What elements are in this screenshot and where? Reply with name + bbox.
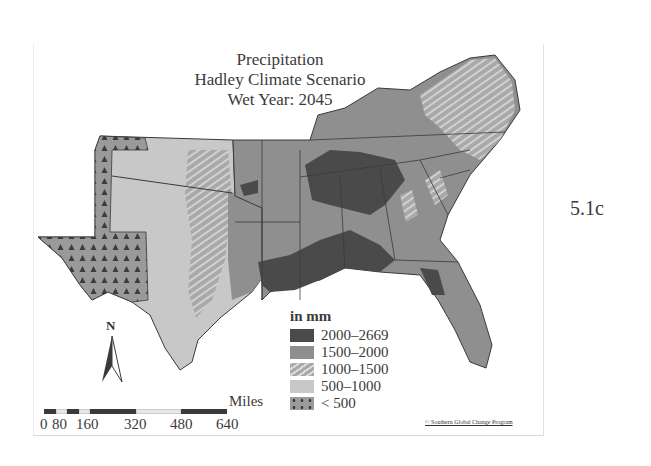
- scale-tick: 480: [170, 416, 193, 433]
- figure-label: 5.1c: [570, 197, 604, 220]
- legend-label: 500–1000: [321, 378, 381, 395]
- legend-label: 1000–1500: [321, 361, 389, 378]
- scale-tick: 0: [40, 416, 48, 433]
- scale-tick: 80: [52, 416, 67, 433]
- legend-swatch-wet: [290, 346, 314, 359]
- legend-item: 1500–2000: [290, 344, 389, 361]
- region-texas-oklahoma: [38, 136, 268, 370]
- legend-swatch-moderate: [290, 363, 314, 376]
- legend-label: 1500–2000: [321, 344, 389, 361]
- legend-label: 2000–2669: [321, 327, 389, 344]
- scale-tick: 160: [76, 416, 99, 433]
- scale-segment: [79, 409, 90, 414]
- title-line-1: Precipitation: [180, 50, 380, 70]
- legend-item: 2000–2669: [290, 327, 389, 344]
- legend: in mm 2000–2669 1500–2000 1000–1500 500–…: [290, 308, 389, 412]
- scale-segment: [56, 409, 67, 414]
- scale-segment: [44, 409, 56, 414]
- scale-tick: 320: [124, 416, 147, 433]
- title-line-2: Hadley Climate Scenario: [180, 70, 380, 90]
- map-title: Precipitation Hadley Climate Scenario We…: [180, 50, 380, 110]
- title-line-3: Wet Year: 2045: [180, 90, 380, 110]
- legend-item: 500–1000: [290, 378, 389, 395]
- scale-segment: [90, 409, 136, 414]
- legend-swatch-dry: [290, 380, 314, 393]
- scale-segment: [67, 409, 79, 414]
- legend-title: in mm: [290, 308, 389, 325]
- legend-swatch-driest: [290, 397, 314, 410]
- north-arrow-icon: [100, 336, 124, 386]
- legend-item: < 500: [290, 395, 389, 412]
- legend-swatch-wettest: [290, 329, 314, 342]
- north-label: N: [106, 318, 115, 334]
- scale-tick: 640: [216, 416, 239, 433]
- scale-segment: [181, 409, 227, 414]
- credit-link[interactable]: © Southern Global Change Program: [425, 419, 513, 425]
- legend-label: < 500: [321, 395, 356, 412]
- scale-unit: Miles: [229, 393, 263, 410]
- legend-item: 1000–1500: [290, 361, 389, 378]
- scale-segment: [136, 409, 181, 414]
